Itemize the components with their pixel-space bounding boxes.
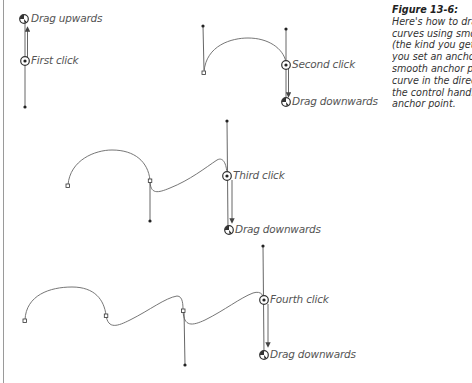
panel-2-click-label: Second click (292, 58, 355, 70)
panel-2-drag-label: Drag downwards (292, 95, 378, 107)
panel-1-click-label: First click (31, 54, 78, 66)
click-target-icon (282, 61, 291, 70)
panel-4-click-label: Fourth click (270, 293, 329, 305)
panel-1 (20, 15, 30, 109)
caption-line: you set an anchor po (392, 51, 472, 63)
caption-line: curves using smooth (392, 28, 472, 40)
caption-line: anchor point. (392, 98, 472, 110)
panel-1-drag-label: Drag upwards (31, 12, 102, 24)
click-target-icon (223, 172, 232, 181)
figure-caption: Figure 13-6: Here's how to draw c curves… (392, 4, 472, 110)
handle-dot-icon (23, 105, 26, 108)
anchor-point-icon (202, 71, 206, 75)
drag-cursor-icon (282, 98, 291, 107)
drag-cursor-icon (20, 15, 29, 24)
click-target-icon (21, 57, 30, 66)
drag-cursor-icon (260, 351, 269, 360)
panel-4 (23, 244, 268, 366)
caption-line: Here's how to draw c (392, 16, 472, 28)
panel-3 (66, 119, 233, 234)
caption-line: (the kind you get by (392, 39, 472, 51)
panel-2 (201, 24, 290, 106)
click-target-icon (260, 296, 269, 305)
panel-3-click-label: Third click (233, 169, 285, 181)
drag-cursor-icon (225, 226, 234, 235)
caption-line: the control handle of (392, 87, 472, 99)
panel-3-drag-label: Drag downwards (235, 223, 321, 235)
caption-line: smooth anchor point (392, 63, 472, 75)
panel-4-drag-label: Drag downwards (270, 348, 356, 360)
figure-label: Figure 13-6: (392, 4, 472, 16)
caption-line: curve in the direction (392, 75, 472, 87)
